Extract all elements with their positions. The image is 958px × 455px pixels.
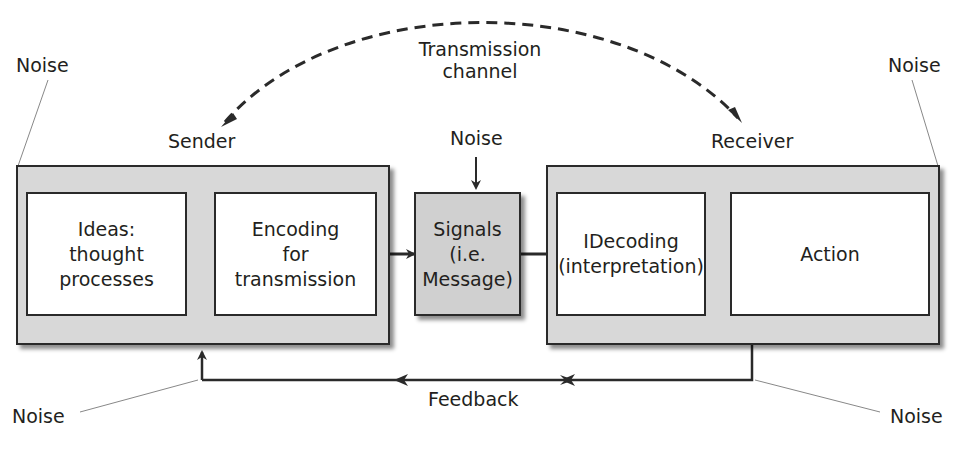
box-text: Action bbox=[800, 242, 860, 267]
box-text: Ideas: bbox=[78, 217, 135, 242]
signals-box: Signals (i.e. Message) bbox=[414, 192, 521, 316]
noise-label-top-left: Noise bbox=[16, 54, 69, 76]
box-text: Message) bbox=[422, 267, 513, 292]
box-text: (i.e. bbox=[449, 242, 485, 267]
box-text: Encoding bbox=[252, 217, 340, 242]
box-text: (interpretation) bbox=[558, 254, 704, 279]
ideas-box: Ideas: thought processes bbox=[26, 192, 187, 316]
channel-label-line: Transmission bbox=[400, 38, 560, 60]
noise-label-bottom-right: Noise bbox=[890, 405, 943, 427]
signal-noise-label: Noise bbox=[450, 127, 503, 149]
encoding-box: Encoding for transmission bbox=[214, 192, 377, 316]
channel-label-line: channel bbox=[400, 60, 560, 82]
transmission-channel-label: Transmission channel bbox=[400, 38, 560, 82]
receiver-label: Receiver bbox=[711, 130, 793, 152]
sender-label: Sender bbox=[168, 130, 235, 152]
box-text: IDecoding bbox=[583, 229, 678, 254]
box-text: transmission bbox=[235, 267, 356, 292]
box-text: for bbox=[282, 242, 308, 267]
noise-label-bottom-left: Noise bbox=[12, 405, 65, 427]
noise-label-top-right: Noise bbox=[888, 54, 941, 76]
feedback-label: Feedback bbox=[428, 388, 518, 410]
action-box: Action bbox=[730, 192, 930, 316]
box-text: Signals bbox=[433, 217, 501, 242]
box-text: thought bbox=[69, 242, 144, 267]
box-text: processes bbox=[59, 267, 154, 292]
decoding-box: IDecoding (interpretation) bbox=[556, 192, 706, 316]
